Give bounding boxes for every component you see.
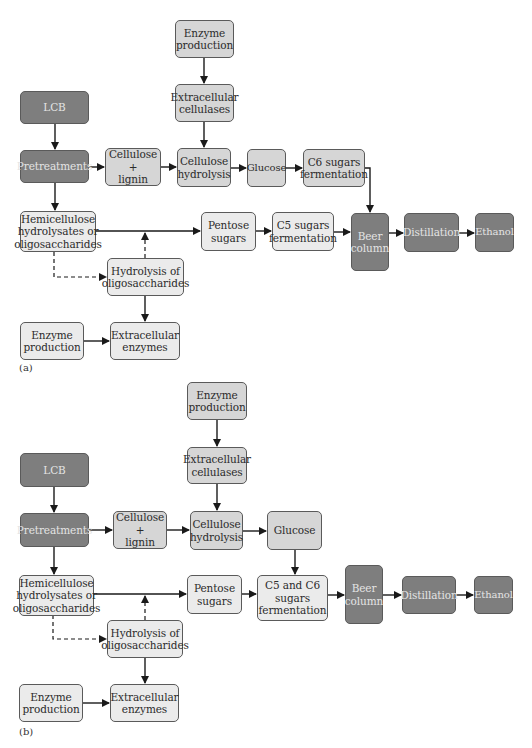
node-hemicellulose-b: Hemicellulose hydrolysates or oligosacch… <box>19 575 94 616</box>
node-pretreatments-a: Pretreatments <box>20 150 89 183</box>
node-lcb-b: LCB <box>20 453 89 487</box>
node-pentose-sugars-b: Pentose sugars <box>187 575 242 614</box>
node-enzyme-production-bottom-a: Enzyme production <box>20 322 84 360</box>
node-cellulose-lignin-a: Cellulose + lignin <box>105 148 161 186</box>
node-hemicellulose-a: Hemicellulose hydrolysates or oligosacch… <box>20 211 96 252</box>
panel-label-a: (a) <box>19 362 33 373</box>
node-distillation-a: Distillation <box>404 213 459 252</box>
node-hydrolysis-oligosaccharides-b: Hydrolysis of oligosaccharides <box>107 620 183 658</box>
node-extracellular-enzymes-b: Extracellular enzymes <box>110 684 179 722</box>
node-ethanol-a: Ethanol <box>475 213 514 252</box>
node-cellulose-hydrolysis-a: Cellulose hydrolysis <box>177 148 231 187</box>
node-enzyme-production-bottom-b: Enzyme production <box>19 684 83 722</box>
process-flow-figure: Enzyme production Extracellular cellulas… <box>0 0 532 748</box>
node-enzyme-production-top-a: Enzyme production <box>175 20 234 58</box>
node-beer-column-b: Beer column <box>345 565 383 624</box>
node-c5-fermentation-a: C5 sugars fermentation <box>272 212 334 251</box>
node-cellulose-lignin-b: Cellulose + lignin <box>113 511 167 549</box>
node-pretreatments-b: Pretreatments <box>20 513 89 547</box>
panel-label-b: (b) <box>19 726 33 737</box>
node-enzyme-production-top-b: Enzyme production <box>187 382 247 420</box>
node-cellulose-hydrolysis-b: Cellulose hydrolysis <box>190 511 243 550</box>
dashed-arrow-hemicellulose-to-hydrolysis-b <box>53 615 106 639</box>
node-beer-column-a: Beer column <box>351 213 389 271</box>
node-hydrolysis-oligosaccharides-a: Hydrolysis of oligosaccharides <box>107 258 184 296</box>
node-ethanol-b: Ethanol <box>474 576 513 614</box>
node-extracellular-cellulases-b: Extracellular cellulases <box>187 447 247 484</box>
node-c5-c6-fermentation-b: C5 and C6 sugars fermentation <box>257 575 328 621</box>
node-lcb-a: LCB <box>20 91 89 124</box>
dashed-arrow-hemicellulose-to-hydrolysis-a <box>54 252 106 277</box>
node-extracellular-enzymes-a: Extracellular enzymes <box>110 322 180 360</box>
node-extracellular-cellulases-a: Extracellular cellulases <box>175 84 234 122</box>
node-glucose-b: Glucose <box>267 511 322 550</box>
node-distillation-b: Distillation <box>402 576 456 614</box>
node-c6-fermentation-a: C6 sugars fermentation <box>303 149 365 187</box>
node-glucose-a: Glucose <box>247 149 286 187</box>
node-pentose-sugars-a: Pentose sugars <box>201 212 256 251</box>
